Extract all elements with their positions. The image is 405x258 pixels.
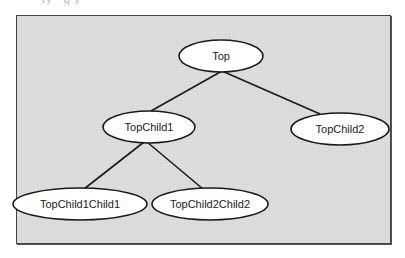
tree-diagram: Top TopChild1 TopChild2 TopChild1Child1 … — [0, 0, 405, 258]
node-label: TopChild2 — [316, 123, 365, 135]
node-label: TopChild1Child1 — [40, 198, 120, 210]
edge-topchild1-topchild1child1 — [84, 142, 144, 189]
node-label: TopChild1 — [125, 121, 174, 133]
edge-topchild1-topchild2child2 — [147, 142, 203, 189]
node-topchild2[interactable]: TopChild2 — [291, 113, 389, 145]
node-topchild1child1[interactable]: TopChild1Child1 — [13, 188, 147, 220]
edge-top-topchild2 — [222, 71, 320, 114]
edge-top-topchild1 — [151, 71, 222, 111]
node-top[interactable]: Top — [179, 40, 263, 72]
node-topchild1[interactable]: TopChild1 — [103, 111, 195, 143]
node-label: Top — [212, 50, 230, 62]
node-label: TopChild2Child2 — [170, 198, 250, 210]
node-topchild2child2[interactable]: TopChild2Child2 — [152, 188, 268, 220]
